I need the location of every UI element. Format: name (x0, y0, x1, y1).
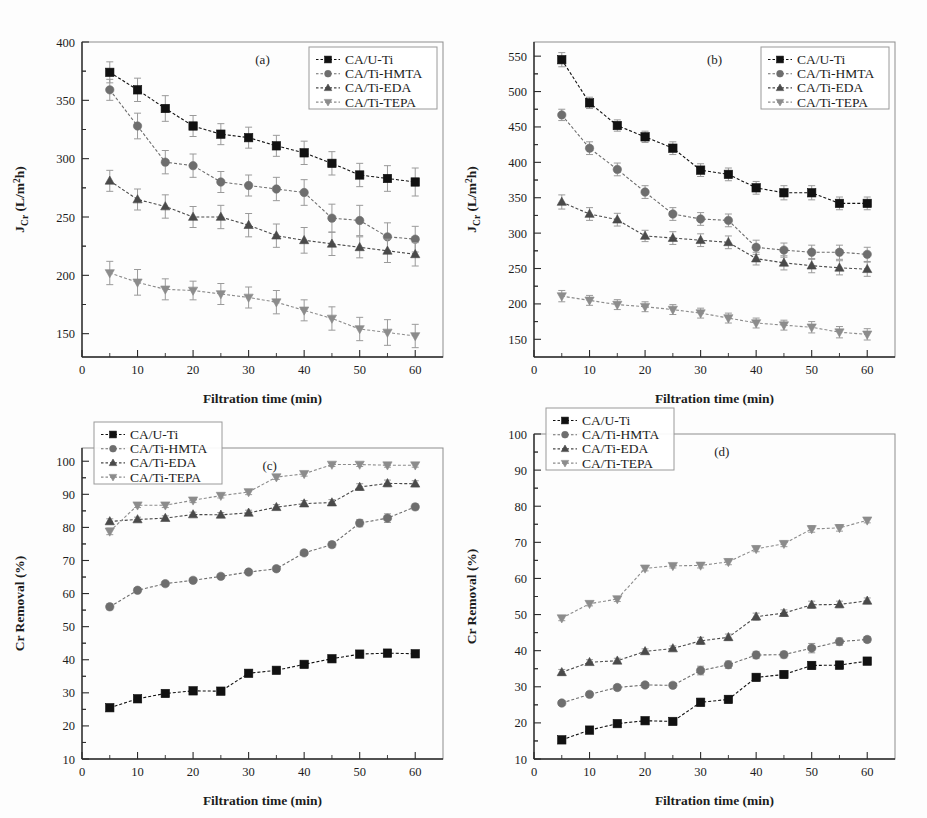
data-point-marker (558, 736, 566, 744)
y-tick-label: 350 (508, 191, 527, 205)
y-tick-label: 350 (56, 94, 75, 108)
data-point-marker (780, 246, 788, 254)
data-point-marker (161, 202, 170, 210)
data-point-marker (272, 474, 281, 482)
data-point-marker (562, 417, 569, 424)
legend-panel-c: CA/U-TiCA/Ti-HMTACA/Ti-EDACA/Ti-TEPA (94, 422, 222, 485)
y-tick-label: 90 (515, 464, 528, 478)
legend-panel-d: CA/U-TiCA/Ti-HMTACA/Ti-EDACA/Ti-TEPA (546, 408, 674, 471)
data-point-marker (189, 122, 197, 130)
data-point-marker (188, 212, 197, 220)
data-point-marker (106, 603, 114, 611)
series-line (110, 483, 415, 521)
data-point-marker (217, 130, 225, 138)
y-tick-label: 60 (515, 572, 528, 586)
data-point-marker (188, 287, 197, 295)
y-tick-label: 70 (515, 536, 528, 550)
y-axis-title: Cr Removal (%) (12, 556, 27, 652)
data-point-marker (562, 431, 569, 438)
legend-label: CA/Ti-TEPA (130, 470, 201, 485)
series-line (110, 507, 415, 607)
data-point-marker (585, 657, 594, 665)
y-axis-title: Cr Removal (%) (464, 549, 479, 645)
x-tick-label: 10 (131, 363, 144, 377)
data-point-marker (863, 596, 872, 604)
legend-label: CA/Ti-TEPA (582, 456, 653, 471)
data-point-marker (724, 661, 732, 669)
data-point-marker (300, 499, 309, 507)
data-point-marker (724, 695, 732, 703)
legend-label: CA/U-Ti (797, 52, 846, 67)
series-ca-u-ti (558, 657, 872, 744)
y-tick-label: 150 (508, 333, 527, 347)
panel-d-chart: 0102030405060102030405060708090100(d)CA/… (462, 406, 917, 811)
data-point-marker (105, 270, 114, 278)
data-point-marker (110, 431, 117, 438)
data-point-marker (863, 199, 871, 207)
y-tick-label: 10 (515, 753, 528, 767)
data-point-marker (383, 514, 391, 522)
data-point-marker (383, 174, 391, 182)
data-point-marker (272, 231, 281, 239)
y-tick-label: 200 (56, 269, 75, 283)
x-tick-label: 40 (298, 765, 311, 779)
data-point-marker (244, 669, 252, 677)
series-ca-ti-tepa (557, 517, 872, 623)
panel-tag-d: (d) (714, 444, 729, 459)
series-ca-ti-hmta (558, 109, 872, 261)
y-tick-label: 20 (63, 719, 76, 733)
plot-frame (534, 434, 895, 759)
data-point-marker (557, 668, 566, 676)
data-point-marker (835, 637, 843, 645)
data-point-marker (244, 133, 252, 141)
data-point-marker (807, 661, 815, 669)
x-tick-label: 30 (694, 765, 707, 779)
data-point-marker (640, 231, 649, 239)
y-tick-label: 550 (508, 50, 527, 64)
data-point-marker (327, 498, 336, 506)
data-point-marker (328, 159, 336, 167)
data-point-marker (272, 666, 280, 674)
x-tick-label: 30 (242, 765, 255, 779)
data-point-marker (863, 331, 872, 339)
data-point-marker (244, 568, 252, 576)
data-point-marker (752, 545, 761, 553)
data-point-marker (411, 235, 419, 243)
data-point-marker (641, 681, 649, 689)
panel-b-chart: 0102030405060150200250300350400450500550… (462, 14, 917, 409)
data-point-marker (189, 687, 197, 695)
data-point-marker (411, 650, 419, 658)
x-tick-label: 20 (187, 363, 200, 377)
data-point-marker (557, 615, 566, 623)
legend-label: CA/U-Ti (582, 413, 631, 428)
y-tick-label: 60 (63, 587, 76, 601)
data-point-marker (355, 216, 363, 224)
series-line (562, 601, 867, 673)
y-tick-label: 450 (508, 120, 527, 134)
y-axis-title: JCr (L/m2h) (464, 166, 482, 232)
panel-a-chart: 0102030405060150200250300350400(a)CA/U-T… (10, 14, 465, 409)
data-point-marker (161, 502, 170, 510)
data-point-marker (613, 683, 621, 691)
data-point-marker (217, 178, 225, 186)
data-point-marker (133, 122, 141, 130)
data-point-marker (558, 699, 566, 707)
data-point-marker (777, 56, 784, 63)
x-tick-label: 10 (131, 765, 144, 779)
data-point-marker (613, 301, 622, 309)
data-point-marker (189, 576, 197, 584)
legend-label: CA/U-Ti (345, 52, 394, 67)
data-point-marker (300, 188, 308, 196)
x-tick-label: 20 (639, 765, 652, 779)
y-tick-label: 50 (63, 620, 76, 634)
data-point-marker (669, 144, 677, 152)
data-point-marker (835, 329, 844, 337)
series-line (562, 520, 867, 618)
data-point-marker (133, 586, 141, 594)
y-tick-label: 250 (508, 262, 527, 276)
x-tick-label: 60 (861, 363, 874, 377)
series-line (562, 115, 867, 254)
data-point-marker (696, 310, 705, 318)
data-point-marker (780, 670, 788, 678)
x-axis-title: Filtration time (min) (655, 391, 774, 406)
